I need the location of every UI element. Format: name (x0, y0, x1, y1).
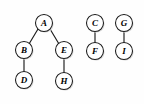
node-label-f: F (91, 46, 98, 56)
node-label-a: A (40, 18, 47, 28)
graph-svg: ABEDHCFGI (0, 0, 144, 104)
node-label-e: E (60, 45, 67, 55)
node-layer: ABEDHCFGI (16, 15, 134, 91)
node-i[interactable]: I (116, 43, 134, 61)
node-c[interactable]: C (87, 15, 105, 33)
diagram-canvas: ABEDHCFGI (0, 0, 144, 104)
edge-layer (24, 29, 124, 72)
node-label-g: G (121, 18, 128, 28)
node-e[interactable]: E (56, 42, 74, 60)
node-d[interactable]: D (16, 72, 34, 90)
node-h[interactable]: H (56, 73, 74, 91)
edge-a-b (29, 29, 38, 44)
node-label-b: B (20, 45, 27, 55)
node-a[interactable]: A (36, 15, 54, 33)
node-label-c: C (92, 18, 99, 28)
node-label-i: I (121, 46, 126, 56)
edge-a-e (50, 29, 59, 44)
node-f[interactable]: F (87, 43, 105, 61)
node-b[interactable]: B (16, 42, 34, 60)
node-label-d: D (20, 75, 28, 85)
node-label-h: H (59, 76, 68, 86)
node-g[interactable]: G (116, 15, 134, 33)
